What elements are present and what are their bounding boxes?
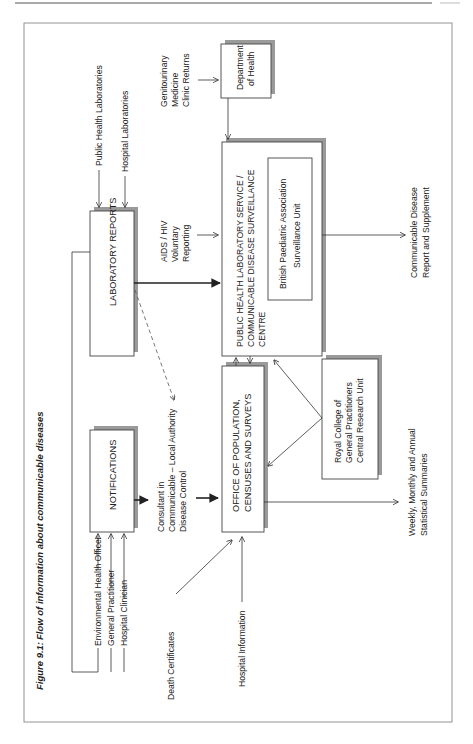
diagram-canvas: Figure 9.1: Flow of information about co…: [0, 0, 473, 744]
svg-text:Royal College of: Royal College of: [333, 399, 343, 463]
svg-text:Voluntary: Voluntary: [170, 225, 180, 262]
dashed-arrow-lab-to-consultant: [135, 290, 174, 400]
notifications-box: NOTIFICATIONS: [90, 426, 138, 532]
svg-text:Hospital Clinician: Hospital Clinician: [119, 580, 129, 646]
svg-text:General Practitioner: General Practitioner: [106, 569, 116, 646]
svg-text:COMMUNICABLE DISEASE SURVEILLA: COMMUNICABLE DISEASE SURVEILLANCE: [246, 169, 256, 347]
svg-text:CENSUSES AND SURVEYS: CENSUSES AND SURVEYS: [243, 394, 253, 512]
svg-text:Department: Department: [235, 44, 245, 90]
svg-text:Clinic Returns: Clinic Returns: [181, 54, 191, 108]
svg-text:NOTIFICATIONS: NOTIFICATIONS: [108, 440, 118, 510]
svg-text:AIDS / HIV: AIDS / HIV: [159, 220, 169, 262]
arrow-rcgp-to-phls: [274, 360, 322, 418]
svg-text:Central Research Unit: Central Research Unit: [355, 378, 365, 463]
svg-text:Statistical Summaries: Statistical Summaries: [419, 453, 429, 536]
svg-text:LABORATORY REPORTS: LABORATORY REPORTS: [108, 198, 118, 306]
svg-text:Death Certificates: Death Certificates: [166, 632, 176, 700]
source-general-practitioner: General Practitioner: [106, 534, 116, 672]
laboratory-reports-box: LABORATORY REPORTS: [90, 198, 138, 356]
svg-text:Environmental Health Officer: Environmental Health Officer: [93, 536, 103, 646]
figure-label: Figure 9.1:: [34, 642, 45, 690]
svg-text:OFFICE OF POPULATION,: OFFICE OF POPULATION,: [231, 399, 241, 512]
source-gum-clinic-returns: Genitourinary Medicine Clinic Returns: [159, 54, 218, 108]
svg-text:Communicable – Local Authority: Communicable – Local Authority: [167, 408, 177, 532]
svg-text:of Health: of Health: [246, 51, 256, 86]
svg-text:Reporting: Reporting: [181, 225, 191, 262]
output-communicable-disease-report: Communicable Disease Report and Suppleme…: [409, 187, 431, 278]
svg-text:British Paediatric Association: British Paediatric Association: [278, 178, 288, 289]
svg-text:Weekly, Monthly and Annual: Weekly, Monthly and Annual: [407, 428, 417, 536]
svg-text:Public Health Laboratories: Public Health Laboratories: [94, 65, 104, 166]
figure-caption: Figure 9.1: Flow of information about co…: [34, 411, 45, 690]
svg-text:Consultant in: Consultant in: [156, 482, 166, 532]
bpa-surveillance-unit-box: British Paediatric Association Surveilla…: [268, 158, 312, 300]
svg-text:PUBLIC HEALTH LABORATORY SERVI: PUBLIC HEALTH LABORATORY SERVICE /: [235, 175, 245, 347]
source-environmental-health-officer: Environmental Health Officer: [93, 534, 103, 672]
opcs-box: OFFICE OF POPULATION, CENSUSES AND SURVE…: [222, 362, 268, 532]
source-hospital-information: Hospital Information: [237, 537, 247, 687]
svg-text:Medicine: Medicine: [170, 72, 180, 107]
consultant-ccdc-label: Consultant in Communicable – Local Autho…: [156, 408, 188, 532]
svg-text:Surveillance Unit: Surveillance Unit: [292, 203, 302, 268]
source-death-certificates: Death Certificates: [166, 540, 232, 700]
source-hospital-clinician: Hospital Clinician: [119, 534, 129, 672]
rcgp-research-unit-box: Royal College of General Practitioners C…: [322, 355, 382, 479]
source-aids-hiv-voluntary-reporting: AIDS / HIV Voluntary Reporting: [159, 220, 218, 262]
svg-text:Communicable Disease: Communicable Disease: [409, 187, 419, 278]
svg-text:Report and Supplement: Report and Supplement: [421, 187, 431, 278]
output-weekly-monthly-annual-summaries: Weekly, Monthly and Annual Statistical S…: [407, 428, 429, 536]
source-public-health-laboratories: Public Health Laboratories: [94, 65, 104, 207]
svg-text:Hospital Laboratories: Hospital Laboratories: [120, 91, 130, 172]
svg-text:General Practitioners: General Practitioners: [344, 382, 354, 463]
svg-text:CENTRE: CENTRE: [257, 311, 267, 347]
figure-title: Flow of information about communicable d…: [34, 411, 45, 640]
source-hospital-laboratories: Hospital Laboratories: [120, 91, 130, 207]
department-of-health-box: Department of Health: [221, 40, 275, 98]
svg-text:Hospital Information: Hospital Information: [237, 610, 247, 687]
svg-text:Disease Control: Disease Control: [178, 471, 188, 532]
svg-text:Genitourinary: Genitourinary: [159, 55, 169, 107]
arrow-rcgp-to-opcs: [268, 418, 322, 466]
